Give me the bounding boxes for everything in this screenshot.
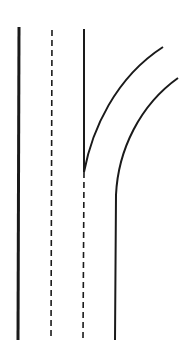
road-lane-diagram — [0, 0, 189, 353]
lane-divider-dashed — [51, 30, 52, 340]
diagram-svg — [0, 0, 189, 353]
inner-edge-dashed-continuation — [83, 172, 84, 340]
left-edge-line — [18, 27, 19, 340]
branch-outer-edge — [115, 78, 178, 340]
